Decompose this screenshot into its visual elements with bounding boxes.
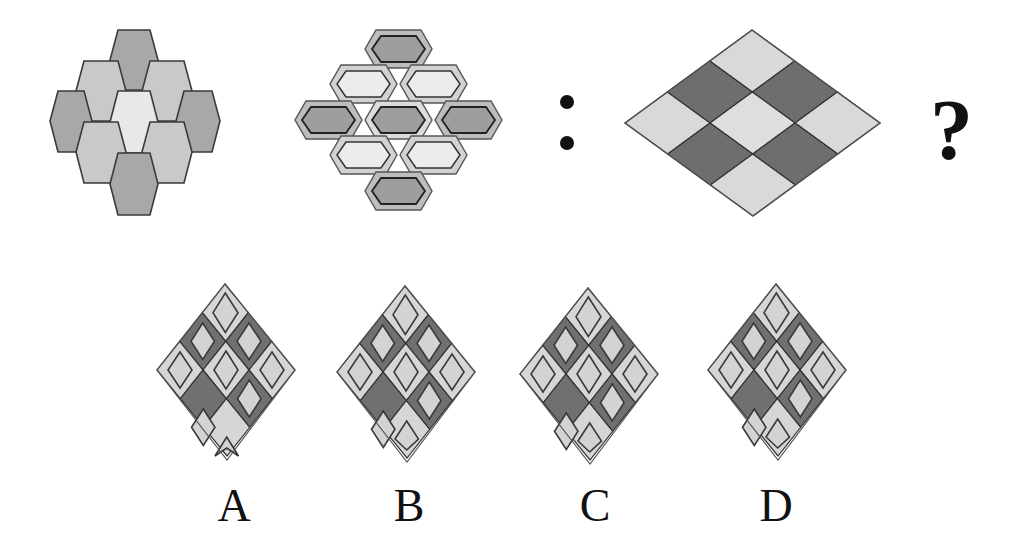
rhombus-option-a [157,284,295,460]
option-d-figure[interactable] [706,282,848,462]
rhombus-option-c [520,288,658,464]
option-a-label[interactable]: A [204,478,264,534]
question-mark: ? [930,90,973,170]
colon-dot-top [560,95,574,109]
rhombus-option-d [708,284,846,460]
rhombus-option-b [337,286,475,462]
colon-dot-bottom [560,136,574,150]
option-c-label[interactable]: C [565,478,625,534]
option-d-label[interactable]: D [746,478,806,534]
figure-hex-cluster-plain [40,20,240,225]
option-b-figure[interactable] [335,284,477,464]
figure-rhombus-grid [620,25,885,220]
option-b-label[interactable]: B [379,478,439,534]
figure-hex-cluster-bordered [285,25,510,220]
ratio-colon-separator [557,83,577,163]
option-a-figure[interactable] [155,282,297,462]
option-c-figure[interactable] [518,286,660,466]
